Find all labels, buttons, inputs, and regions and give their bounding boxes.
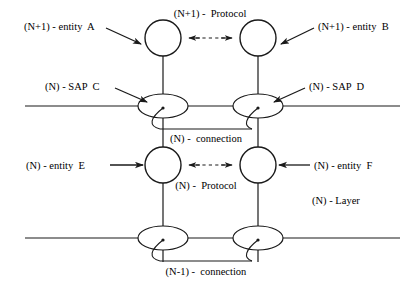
label-protocol-upper: (N+1) - Protocol <box>174 8 247 20</box>
label-entity-a: (N+1) - entity A <box>24 21 95 33</box>
layer-boundaries <box>25 106 400 238</box>
sap-d-ellipse <box>233 94 283 118</box>
label-sap-d: (N) - SAP D <box>309 81 364 93</box>
label-sap-c: (N) - SAP C <box>45 81 99 93</box>
sap-c-leader-arrow <box>115 88 147 102</box>
label-layer-n: (N) - Layer <box>312 195 360 207</box>
sap-lower-right-ellipse <box>233 226 283 250</box>
label-leader-arrows <box>106 28 314 165</box>
label-entity-b: (N+1) - entity B <box>318 21 389 33</box>
protocol-arrows <box>189 38 232 165</box>
entity-a-circle <box>145 20 181 56</box>
label-entity-f: (N) - entity F <box>314 160 372 172</box>
osi-layer-diagram: (N+1) - entity A (N+1) - Protocol (N+1) … <box>0 0 418 290</box>
diagram-canvas: (N+1) - entity A (N+1) - Protocol (N+1) … <box>0 0 418 290</box>
label-n-minus-1-connection: (N-1) - connection <box>166 266 248 278</box>
entity-e-circle <box>145 147 181 183</box>
label-n-connection: (N) - connection <box>170 133 243 145</box>
entity-a-leader-arrow <box>106 28 141 44</box>
label-entity-e: (N) - entity E <box>26 160 85 172</box>
entity-f-circle <box>240 147 276 183</box>
upper-sap-group <box>138 94 283 129</box>
entity-b-leader-arrow <box>281 28 314 44</box>
label-protocol-lower: (N) - Protocol <box>175 180 237 192</box>
entity-b-circle <box>240 20 276 56</box>
sap-lower-left-ellipse <box>138 226 188 250</box>
sap-d-leader-arrow <box>274 88 305 102</box>
sap-c-ellipse <box>138 94 188 118</box>
lower-sap-group <box>138 226 283 261</box>
